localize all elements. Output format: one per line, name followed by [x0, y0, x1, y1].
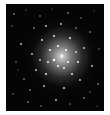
star-field — [6, 4, 104, 111]
star-cluster-photo — [6, 4, 104, 111]
